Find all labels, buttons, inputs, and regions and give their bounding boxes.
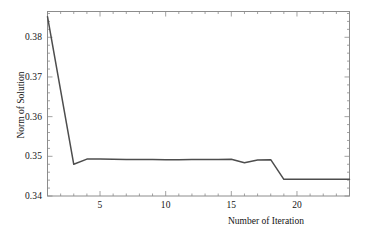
x-tick-label: 10 bbox=[161, 200, 171, 210]
plot-frame bbox=[48, 12, 350, 197]
x-axis-title: Number of Iteration bbox=[228, 216, 304, 226]
plot-canvas bbox=[0, 0, 365, 239]
x-tick-label: 5 bbox=[98, 200, 103, 210]
x-tick-label: 15 bbox=[226, 200, 236, 210]
y-tick-label: 0.38 bbox=[6, 32, 42, 42]
chart-figure: 0.340.350.360.370.38 5101520 Norm of Sol… bbox=[0, 0, 365, 239]
y-axis-title: Norm of Solution bbox=[16, 45, 26, 165]
x-tick-label: 20 bbox=[292, 200, 302, 210]
y-tick-label: 0.34 bbox=[6, 191, 42, 201]
